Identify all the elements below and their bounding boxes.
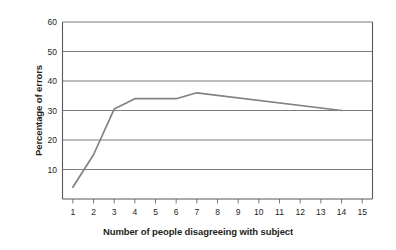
x-tick-label: 5 [153,207,158,217]
x-tick-label: 1 [70,207,75,217]
x-axis-title: Number of people disagreeing with subjec… [0,226,396,237]
x-tick-label: 8 [215,207,220,217]
x-tick-label: 12 [295,207,305,217]
y-tick-label: 30 [48,106,58,116]
line-chart: Percentage of errors 102030405060 123456… [0,0,396,250]
x-tick-label: 9 [236,207,241,217]
y-tick-label: 20 [48,135,58,145]
x-tick-label: 10 [254,207,264,217]
x-tick-label: 4 [132,207,137,217]
x-tick-marks [73,199,362,204]
plot-area: 102030405060 123456789101112131415 [0,0,396,250]
x-tick-label: 6 [174,207,179,217]
x-tick-label: 7 [194,207,199,217]
x-tick-label: 13 [316,207,326,217]
y-tick-label: 40 [48,76,58,86]
x-tick-label: 3 [112,207,117,217]
x-tick-label: 14 [337,207,347,217]
y-tick-labels: 102030405060 [48,17,58,175]
y-tick-label: 50 [48,47,58,57]
y-tick-label: 10 [48,165,58,175]
x-tick-label: 11 [275,207,284,217]
x-tick-labels: 123456789101112131415 [70,207,367,217]
x-tick-label: 2 [91,207,96,217]
y-tick-label: 60 [48,17,58,27]
x-tick-label: 15 [357,207,367,217]
